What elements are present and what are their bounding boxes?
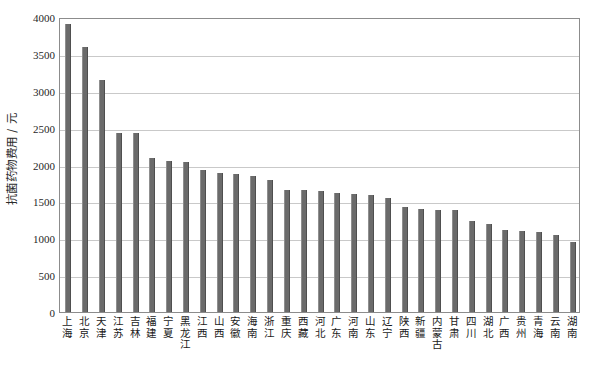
x-axis-tick-label: 云南: [548, 316, 562, 339]
x-axis-tick-label: 浙江: [262, 316, 276, 339]
x-axis-tick-label: 甘肃: [447, 316, 461, 339]
y-axis-tick-label: 500: [39, 271, 56, 282]
bar: [418, 209, 424, 312]
x-axis-tick-label: 吉林: [128, 316, 142, 339]
x-axis-tick-label-char: 甘: [447, 316, 461, 328]
x-axis-tick-label-char: 江: [262, 328, 276, 340]
x-axis-tick-label-char: 河: [346, 316, 360, 328]
x-axis-tick-label-char: 广: [329, 316, 343, 328]
x-axis-tick-label-char: 西: [497, 328, 511, 340]
bar: [250, 176, 256, 312]
x-axis-tick-label: 黑龙江: [178, 316, 192, 351]
bar: [368, 195, 374, 312]
y-axis-tick-label: 1500: [33, 197, 55, 208]
bar: [82, 47, 88, 312]
bar: [99, 80, 105, 312]
x-axis-tick-label-char: 辽: [380, 316, 394, 328]
x-axis-tick-label-char: 浙: [262, 316, 276, 328]
bar: [502, 230, 508, 312]
bar: [402, 207, 408, 312]
x-axis-tick-label-char: 新: [413, 316, 427, 328]
x-axis-tick-label-char: 西: [212, 328, 226, 340]
y-axis-tick-labels: 05001000150020002500300035004000: [20, 0, 58, 330]
x-axis-tick-label: 河北: [313, 316, 327, 339]
x-axis-tick-label: 福建: [144, 316, 158, 339]
x-axis-tick-label-char: 江: [178, 339, 192, 351]
x-axis-tick-label-char: 南: [346, 328, 360, 340]
x-axis-tick-label: 重庆: [279, 316, 293, 339]
x-axis-tick-label-char: 河: [313, 316, 327, 328]
x-axis-tick-label-char: 州: [514, 328, 528, 340]
bar: [334, 193, 340, 312]
bar: [200, 170, 206, 312]
y-axis-tick-label: 4000: [33, 13, 55, 24]
x-axis-tick-label-char: 西: [195, 328, 209, 340]
x-axis-tick-label-char: 山: [363, 316, 377, 328]
x-axis-tick-label-char: 疆: [413, 328, 427, 340]
x-axis-tick-label: 贵州: [514, 316, 528, 339]
x-axis-tick-label-char: 安: [228, 316, 242, 328]
y-axis-tick-label: 1000: [33, 234, 55, 245]
x-axis-tick-label: 青海: [531, 316, 545, 339]
bar: [149, 158, 155, 312]
y-axis-title: 抗菌药物费用 / 元: [0, 0, 22, 318]
x-axis-tick-label-char: 陕: [397, 316, 411, 328]
x-axis-tick-label: 海南: [245, 316, 259, 339]
bar: [570, 242, 576, 312]
x-axis-tick-label-char: 徽: [228, 328, 242, 340]
x-axis-tick-label-char: 湖: [481, 316, 495, 328]
x-axis-tick-label-char: 苏: [111, 328, 125, 340]
x-axis-tick-label: 天津: [94, 316, 108, 339]
x-axis-tick-label: 北京: [77, 316, 91, 339]
y-axis-tick-label: 2000: [33, 160, 55, 171]
x-axis-tick-label-char: 东: [363, 328, 377, 340]
x-axis-tick-label: 山西: [212, 316, 226, 339]
x-axis-tick-label: 西藏: [296, 316, 310, 339]
x-axis-tick-label-char: 山: [212, 316, 226, 328]
x-axis-tick-label-char: 庆: [279, 328, 293, 340]
x-axis-tick-label-char: 京: [77, 328, 91, 340]
x-axis-tick-label: 山东: [363, 316, 377, 339]
x-axis-tick-label: 陕西: [397, 316, 411, 339]
x-axis-tick-label: 广西: [497, 316, 511, 339]
x-axis-tick-label-char: 藏: [296, 328, 310, 340]
bar: [318, 191, 324, 312]
bar: [233, 174, 239, 312]
y-axis-title-text: 抗菌药物费用 / 元: [3, 113, 19, 205]
x-axis-tick-label-char: 重: [279, 316, 293, 328]
bar: [116, 133, 122, 312]
bar: [65, 24, 71, 312]
x-axis-tick-label: 湖南: [565, 316, 579, 339]
bar: [267, 180, 273, 312]
x-axis-tick-label-char: 广: [497, 316, 511, 328]
x-axis-tick-label-char: 江: [195, 316, 209, 328]
x-axis-tick-label: 湖北: [481, 316, 495, 339]
bar: [486, 224, 492, 313]
x-axis-tick-label-char: 天: [94, 316, 108, 328]
x-axis-tick-label-char: 福: [144, 316, 158, 328]
x-axis-tick-label-char: 内: [430, 316, 444, 328]
x-axis-tick-label-char: 东: [329, 328, 343, 340]
x-axis-tick-label-char: 江: [111, 316, 125, 328]
x-axis-tick-label: 河南: [346, 316, 360, 339]
x-axis-tick-label-char: 北: [313, 328, 327, 340]
x-axis-tick-label-char: 北: [481, 328, 495, 340]
x-axis-tick-label-char: 西: [296, 316, 310, 328]
plot-area: [59, 18, 580, 313]
x-axis-tick-label-char: 上: [60, 316, 74, 328]
x-axis-tick-label-char: 云: [548, 316, 562, 328]
bar: [536, 232, 542, 312]
bar: [519, 231, 525, 312]
bar-chart: 抗菌药物费用 / 元 05001000150020002500300035004…: [0, 0, 596, 366]
x-axis-tick-label: 江西: [195, 316, 209, 339]
x-axis-tick-label-char: 夏: [161, 328, 175, 340]
bar: [133, 133, 139, 312]
bar: [553, 235, 559, 312]
bars-layer: [60, 19, 579, 312]
x-axis-tick-label-char: 贵: [514, 316, 528, 328]
x-axis-tick-label-char: 建: [144, 328, 158, 340]
bar: [469, 221, 475, 312]
x-axis-tick-label-char: 津: [94, 328, 108, 340]
bar: [435, 210, 441, 313]
x-axis-tick-label-char: 北: [77, 316, 91, 328]
